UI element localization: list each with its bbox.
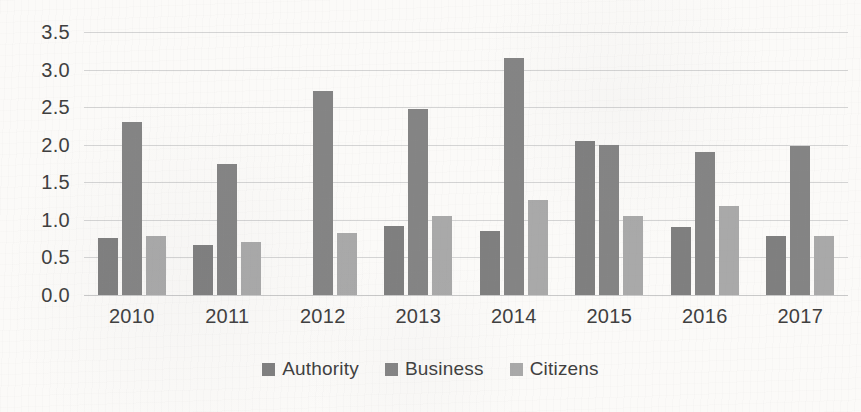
bar-authority-2017[interactable] [766, 236, 786, 295]
bar-citizens-2015[interactable] [623, 216, 643, 295]
legend-label: Citizens [530, 358, 599, 380]
bar-business-2012[interactable] [313, 91, 333, 295]
plot-area [84, 32, 848, 295]
x-tick-label-2016: 2016 [657, 305, 753, 328]
bar-group-2014 [466, 32, 562, 295]
legend-item-citizens[interactable]: Citizens [510, 358, 599, 380]
bar-business-2015[interactable] [599, 145, 619, 295]
bar-citizens-2011[interactable] [241, 242, 261, 295]
bar-business-2014[interactable] [504, 58, 524, 295]
bar-authority-2016[interactable] [671, 227, 691, 295]
bar-group-2016 [657, 32, 753, 295]
x-tick-label-2014: 2014 [466, 305, 562, 328]
bar-citizens-2014[interactable] [528, 200, 548, 295]
legend-swatch-icon [510, 363, 523, 376]
legend-item-authority[interactable]: Authority [262, 358, 359, 380]
legend-swatch-icon [262, 363, 275, 376]
bar-citizens-2010[interactable] [146, 236, 166, 295]
x-tick-label-2017: 2017 [753, 305, 849, 328]
x-tick-label-2010: 2010 [84, 305, 180, 328]
y-tick-label: 2.0 [24, 134, 70, 157]
bar-group-2012 [275, 32, 371, 295]
bar-group-2017 [753, 32, 849, 295]
y-tick-label: 0.5 [24, 246, 70, 269]
bar-group-2015 [562, 32, 658, 295]
x-tick-label-2011: 2011 [180, 305, 276, 328]
x-tick-label-2015: 2015 [562, 305, 658, 328]
bar-group-2010 [84, 32, 180, 295]
bar-group-2011 [180, 32, 276, 295]
bar-citizens-2017[interactable] [814, 236, 834, 295]
y-tick-label: 1.0 [24, 209, 70, 232]
bar-chart: 3.53.02.52.01.51.00.50.0 201020112012201… [0, 0, 861, 412]
bar-citizens-2016[interactable] [719, 206, 739, 295]
gridline [84, 295, 848, 296]
y-tick-label: 3.0 [24, 59, 70, 82]
bar-citizens-2012[interactable] [337, 233, 357, 295]
bar-group-2013 [371, 32, 467, 295]
bar-business-2011[interactable] [217, 164, 237, 295]
bar-business-2017[interactable] [790, 146, 810, 295]
y-tick-label: 0.0 [24, 284, 70, 307]
legend-swatch-icon [385, 363, 398, 376]
bar-authority-2011[interactable] [193, 245, 213, 295]
y-tick-label: 2.5 [24, 96, 70, 119]
bar-authority-2010[interactable] [98, 238, 118, 295]
chart-legend: AuthorityBusinessCitizens [0, 358, 861, 380]
x-axis: 20102011201220132014201520162017 [84, 305, 848, 328]
legend-label: Business [405, 358, 484, 380]
bar-business-2010[interactable] [122, 122, 142, 295]
y-tick-label: 3.5 [24, 21, 70, 44]
bar-citizens-2013[interactable] [432, 216, 452, 295]
bar-groups [84, 32, 848, 295]
bar-business-2013[interactable] [408, 109, 428, 295]
legend-item-business[interactable]: Business [385, 358, 484, 380]
bar-authority-2013[interactable] [384, 226, 404, 295]
x-tick-label-2012: 2012 [275, 305, 371, 328]
bar-business-2016[interactable] [695, 152, 715, 295]
legend-label: Authority [282, 358, 359, 380]
bar-authority-2015[interactable] [575, 141, 595, 295]
bar-authority-2014[interactable] [480, 231, 500, 295]
x-tick-label-2013: 2013 [371, 305, 467, 328]
y-tick-label: 1.5 [24, 171, 70, 194]
